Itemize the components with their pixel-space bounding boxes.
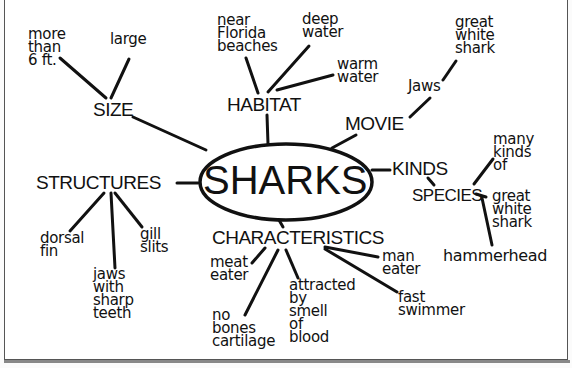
node-habitat-florida: near Florida beaches — [217, 14, 278, 53]
node-size-more-than-6ft: more than 6 ft. — [28, 28, 66, 67]
node-char-no-bones: no bones cartilage — [212, 309, 275, 348]
node-species-many-kinds: many kinds of — [493, 133, 534, 172]
branch-size: SIZE — [93, 100, 133, 119]
node-struct-gill-slits: gill slits — [140, 228, 168, 254]
node-habitat-deep-water: deep water — [302, 13, 343, 39]
node-habitat-warm-water: warm water — [337, 58, 378, 84]
node-species-great-white: great white shark — [492, 190, 532, 229]
node-struct-dorsal-fin: dorsal fin — [40, 232, 84, 258]
node-char-man-eater: man eater — [382, 250, 420, 276]
node-species: SPECIES — [412, 186, 482, 205]
node-char-fast-swimmer: fast swimmer — [398, 291, 465, 317]
branch-movie: MOVIE — [345, 114, 404, 133]
node-movie-great-white: great white shark — [455, 16, 495, 55]
branch-kinds: KINDS — [392, 159, 448, 178]
branch-habitat: HABITAT — [227, 95, 301, 114]
center-topic: SHARKS — [203, 160, 368, 200]
node-movie-jaws: Jaws — [408, 80, 441, 93]
node-size-large: large — [110, 33, 147, 46]
branch-characteristics: CHARACTERISTICS — [212, 228, 384, 247]
node-struct-jaws: jaws with sharp teeth — [93, 268, 134, 320]
node-char-attracted: attracted by smell of blood — [289, 279, 356, 344]
node-species-hammerhead: hammerhead — [443, 249, 547, 262]
node-char-meat-eater: meat eater — [210, 256, 248, 282]
branch-structures: STRUCTURES — [36, 173, 161, 192]
